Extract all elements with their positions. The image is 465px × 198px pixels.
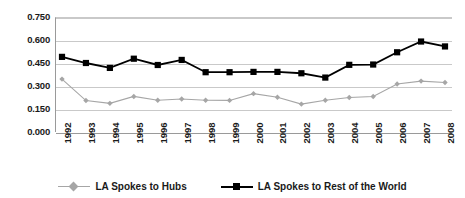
data-point xyxy=(370,94,375,99)
data-point xyxy=(251,91,256,96)
x-axis-tick-label: 1997 xyxy=(182,113,193,153)
data-point xyxy=(274,69,280,75)
data-point xyxy=(418,78,423,83)
y-axis-tick-label: 0.600 xyxy=(2,34,50,45)
data-point xyxy=(394,81,399,86)
data-point xyxy=(131,56,137,62)
series-rest-of-world xyxy=(59,38,448,80)
chart-legend: LA Spokes to Hubs LA Spokes to Rest of t… xyxy=(0,176,465,196)
data-point xyxy=(107,101,112,106)
x-axis-tick-label: 2002 xyxy=(301,113,312,153)
x-axis-tick-label: 2008 xyxy=(445,113,456,153)
data-point xyxy=(370,61,376,67)
data-point xyxy=(203,69,209,75)
data-point xyxy=(179,96,184,101)
y-axis-tick-label: 0.750 xyxy=(2,11,50,22)
data-point xyxy=(347,95,352,100)
x-axis-tick-label: 1993 xyxy=(86,113,97,153)
x-axis-tick-label: 2004 xyxy=(349,113,360,153)
data-point xyxy=(203,98,208,103)
data-point xyxy=(107,65,113,71)
x-axis-tick-label: 1996 xyxy=(158,113,169,153)
data-point xyxy=(226,69,232,75)
legend-swatch-diamond-icon xyxy=(58,181,90,192)
data-point xyxy=(131,94,136,99)
x-axis-tick-label: 2007 xyxy=(421,113,432,153)
data-point xyxy=(442,43,448,49)
data-point xyxy=(179,57,185,63)
y-axis-tick-label: 0.450 xyxy=(2,57,50,68)
y-axis-tick-label: 0.150 xyxy=(2,103,50,114)
x-axis-tick-label: 2000 xyxy=(254,113,265,153)
data-point xyxy=(83,60,89,66)
data-point xyxy=(299,101,304,106)
x-axis-tick-label: 2005 xyxy=(373,113,384,153)
data-point xyxy=(227,98,232,103)
data-point xyxy=(418,38,424,44)
x-axis-tick-label: 1999 xyxy=(230,113,241,153)
data-point xyxy=(322,74,328,80)
legend-label: LA Spokes to Hubs xyxy=(95,181,186,192)
x-axis: 1992199319941995199619971998199920002001… xyxy=(55,133,452,173)
x-axis-tick-label: 1995 xyxy=(134,113,145,153)
legend-label: LA Spokes to Rest of the World xyxy=(258,181,407,192)
data-point xyxy=(394,49,400,55)
data-point xyxy=(323,98,328,103)
x-axis-tick-label: 2001 xyxy=(277,113,288,153)
data-point xyxy=(442,80,447,85)
x-axis-tick-label: 1992 xyxy=(62,113,73,153)
data-point xyxy=(298,70,304,76)
x-axis-tick-label: 1998 xyxy=(206,113,217,153)
data-point xyxy=(275,94,280,99)
x-axis-tick-label: 2003 xyxy=(325,113,336,153)
legend-item-la-spokes-to-rest-of-the-world[interactable]: LA Spokes to Rest of the World xyxy=(221,181,407,192)
y-axis-tick-label: 0.000 xyxy=(2,126,50,137)
data-point xyxy=(346,62,352,68)
legend-item-la-spokes-to-hubs[interactable]: LA Spokes to Hubs xyxy=(58,181,186,192)
x-axis-tick-label: 1994 xyxy=(110,113,121,153)
y-axis-tick-label: 0.300 xyxy=(2,80,50,91)
data-point xyxy=(250,69,256,75)
data-point xyxy=(155,62,161,68)
y-axis: 0.7500.6000.4500.3000.1500.000 xyxy=(0,0,50,160)
data-point xyxy=(59,54,65,60)
x-axis-tick-label: 2006 xyxy=(397,113,408,153)
line-chart: 0.7500.6000.4500.3000.1500.000 199219931… xyxy=(0,0,465,198)
series-hubs xyxy=(59,76,447,106)
legend-swatch-square-icon xyxy=(221,181,253,192)
data-point xyxy=(155,98,160,103)
